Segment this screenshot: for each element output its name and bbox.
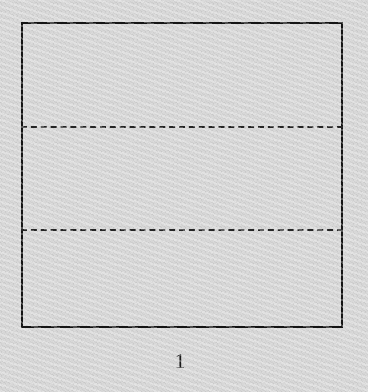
fold-line-lower xyxy=(21,229,343,231)
fold-line-upper xyxy=(21,126,343,128)
figure-diagram: 1 xyxy=(0,0,368,392)
paper-sheet-outline xyxy=(21,22,343,328)
figure-page: 1 xyxy=(0,0,368,392)
figure-number-label: 1 xyxy=(140,351,220,372)
